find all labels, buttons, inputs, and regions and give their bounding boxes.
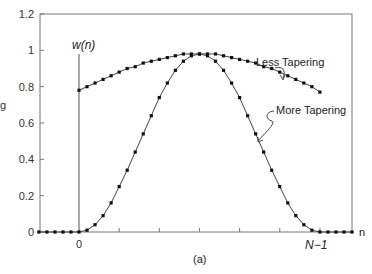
data-point [174, 69, 177, 72]
data-point [134, 65, 137, 68]
data-point [278, 185, 281, 188]
x-tick-label-n-minus-1: N−1 [305, 238, 327, 252]
data-point [238, 96, 241, 99]
data-point [294, 78, 297, 81]
data-point [85, 229, 88, 232]
data-point [101, 78, 104, 81]
data-point [101, 214, 104, 217]
y-tick-label: 1 [28, 44, 34, 56]
data-point [158, 58, 161, 61]
data-point [334, 230, 337, 233]
data-point [350, 230, 353, 233]
data-point [118, 185, 121, 188]
data-point [198, 52, 201, 55]
data-point [294, 214, 297, 217]
data-point [126, 169, 129, 172]
data-point [53, 230, 56, 233]
data-point [246, 60, 249, 63]
data-point [85, 85, 88, 88]
x-axis-label: n [359, 226, 365, 238]
data-point [182, 60, 185, 63]
y-tick-label: 0.8 [19, 81, 34, 93]
x-axis-ticks [119, 228, 320, 232]
data-point [230, 56, 233, 59]
data-point [206, 54, 209, 57]
data-point [190, 54, 193, 57]
data-point [69, 230, 72, 233]
y-tick-label: 0.2 [19, 190, 34, 202]
less-arrowhead-icon [280, 75, 285, 80]
data-point [77, 230, 80, 233]
data-point [318, 230, 321, 233]
data-point [214, 60, 217, 63]
data-point [37, 230, 40, 233]
data-point [45, 230, 48, 233]
function-label: w(n) [72, 38, 95, 52]
data-point [222, 54, 225, 57]
data-point [326, 230, 329, 233]
data-point [166, 81, 169, 84]
data-point [238, 58, 241, 61]
series-more-tapering [37, 52, 353, 233]
data-point [118, 71, 121, 74]
data-point [93, 81, 96, 84]
data-point [61, 230, 64, 233]
annotation-more-tapering: More Tapering [276, 104, 346, 116]
data-point [318, 91, 321, 94]
window-function-chart: g 00.20.40.60.811.2 w(n) Less Tapering M… [0, 0, 372, 274]
data-point [254, 132, 257, 135]
y-tick-label: 0.4 [19, 153, 34, 165]
y-tick-label: 1.2 [19, 8, 34, 20]
data-point [166, 56, 169, 59]
more-arrow-icon [258, 111, 274, 141]
y-tick-label: 0.6 [19, 117, 34, 129]
data-point [286, 74, 289, 77]
data-point [246, 114, 249, 117]
data-point [77, 89, 80, 92]
data-point [142, 61, 145, 64]
data-point [150, 114, 153, 117]
data-point [342, 230, 345, 233]
data-point [310, 85, 313, 88]
data-point [310, 229, 313, 232]
data-point [158, 96, 161, 99]
data-point [134, 150, 137, 153]
data-point [222, 69, 225, 72]
annotation-less-tapering: Less Tapering [256, 56, 324, 68]
data-point [93, 223, 96, 226]
data-point [214, 52, 217, 55]
data-point [174, 54, 177, 57]
data-point [262, 150, 265, 153]
data-point [286, 201, 289, 204]
data-point [110, 201, 113, 204]
data-point [302, 81, 305, 84]
data-point [230, 81, 233, 84]
data-point [150, 60, 153, 63]
figure-caption: (a) [193, 253, 206, 265]
clipped-axis-label: g [0, 99, 6, 111]
y-tick-label: 0 [28, 226, 34, 238]
data-point [182, 52, 185, 55]
data-point [278, 71, 281, 74]
data-point [302, 223, 305, 226]
data-point [126, 67, 129, 70]
data-point [142, 132, 145, 135]
data-point [270, 169, 273, 172]
x-tick-label-0: 0 [76, 238, 82, 250]
data-point [110, 74, 113, 77]
